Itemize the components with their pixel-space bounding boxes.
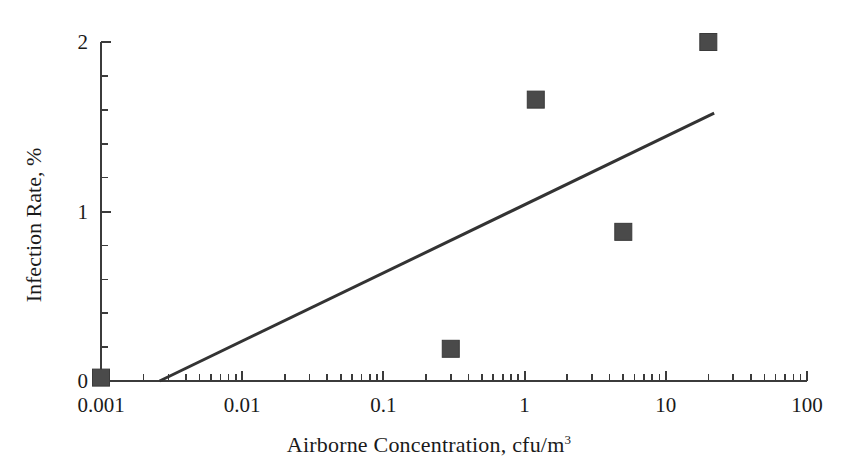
x-axis-ticks <box>101 371 807 381</box>
axes <box>101 42 807 381</box>
data-point-marker <box>527 91 544 108</box>
x-tick-label: 100 <box>791 395 823 416</box>
x-axis-title-superscript: 3 <box>564 432 571 447</box>
x-tick-label: 0.01 <box>224 395 261 416</box>
data-point-marker <box>93 369 110 386</box>
data-point-marker <box>700 34 717 51</box>
x-tick-label: 1 <box>519 395 530 416</box>
data-point-marker <box>442 340 459 357</box>
x-axis-title: Airborne Concentration, cfu/m3 <box>0 432 858 458</box>
trend-line-group <box>160 113 715 381</box>
data-point-marker <box>615 223 632 240</box>
infection-rate-scatter-chart: 0.0010.010.1110100 012 Airborne Concentr… <box>0 0 858 475</box>
y-axis-title: Infection Rate, % <box>21 45 47 405</box>
y-tick-label: 0 <box>48 369 88 394</box>
x-tick-label: 0.1 <box>370 395 396 416</box>
y-tick-label: 1 <box>48 199 88 224</box>
y-tick-label: 2 <box>48 30 88 55</box>
data-markers <box>93 34 717 387</box>
trend-line <box>160 113 715 381</box>
x-tick-label: 10 <box>655 395 676 416</box>
y-axis-ticks <box>101 42 111 381</box>
x-tick-label: 0.001 <box>77 395 124 416</box>
plot-area <box>0 0 858 475</box>
